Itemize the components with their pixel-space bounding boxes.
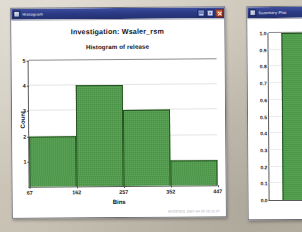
chart-subtitle: Histogram of release xyxy=(14,42,220,52)
summary-plot-frame: 0.0 0.1 0.2 0.3 0.4 0.5 0.6 0.7 0.8 0.9 … xyxy=(267,33,302,201)
y-axis-label: Count xyxy=(20,111,26,128)
sum-ytick-0.6: 0.6 xyxy=(260,97,267,103)
investigation-title: Investigation: Wsaler_rsm xyxy=(14,26,220,37)
window-summary-plot[interactable]: Summary Plot 0.0 0.1 0.2 0.3 0.4 xyxy=(246,6,302,221)
summary-bar-1[interactable] xyxy=(281,32,302,200)
xtick-352: 352 xyxy=(166,189,175,195)
sum-ytick-0.8: 0.8 xyxy=(260,64,267,70)
sum-ytick-0.2: 0.2 xyxy=(260,164,267,170)
sum-ytick-1.0: 1.0 xyxy=(259,30,266,36)
ytick-2: 2 xyxy=(23,133,26,139)
ytick-5: 5 xyxy=(23,58,26,64)
ytick-1: 1 xyxy=(23,159,26,165)
sum-ytick-0.7: 0.7 xyxy=(260,80,267,86)
histogram-plot-frame: 1 1 2 3 4 5 67 162 257 352 447 xyxy=(28,59,218,187)
histogram-bars xyxy=(29,59,218,186)
ytick-4: 4 xyxy=(23,83,26,89)
histogram-chart[interactable]: 1 1 2 3 4 5 67 162 257 352 447 xyxy=(28,59,218,187)
histogram-window-title: Histogram xyxy=(22,10,197,16)
summary-titlebar[interactable]: Summary Plot xyxy=(247,7,302,19)
summary-window-body: 0.0 0.1 0.2 0.3 0.4 0.5 0.6 0.7 0.8 0.9 … xyxy=(247,18,302,219)
sum-ytick-0.5: 0.5 xyxy=(260,114,267,120)
minimize-icon[interactable] xyxy=(197,9,205,17)
maximize-icon[interactable] xyxy=(206,9,214,17)
sum-ytick-0.3: 0.3 xyxy=(260,147,267,153)
xtick-162: 162 xyxy=(72,189,81,195)
sum-ytick-0.9: 0.9 xyxy=(260,47,267,53)
histogram-window-body: Investigation: Wsaler_rsm Histogram of r… xyxy=(11,18,226,218)
close-icon[interactable] xyxy=(215,9,223,17)
sum-ytick-0.4: 0.4 xyxy=(260,130,267,136)
summary-window-title: Summary Plot xyxy=(258,10,302,15)
summary-chart[interactable]: 0.0 0.1 0.2 0.3 0.4 0.5 0.6 0.7 0.8 0.9 … xyxy=(267,33,302,201)
window-histogram[interactable]: Histogram Investigation: Wsaler_rsm Hist… xyxy=(10,6,227,219)
sum-ytick-0.1: 0.1 xyxy=(261,180,268,186)
window-app-icon xyxy=(249,9,256,16)
histogram-bar-2[interactable] xyxy=(76,85,124,186)
xtick-257: 257 xyxy=(119,189,128,195)
histogram-window-controls xyxy=(197,9,223,17)
histogram-bar-3[interactable] xyxy=(123,110,171,186)
chart-timestamp: 04/23/2011 2007-04-23 10:11:07 xyxy=(168,209,220,213)
x-axis-label: Bins xyxy=(13,198,226,206)
sum-ytick-0.0: 0.0 xyxy=(261,197,268,203)
histogram-bar-4[interactable] xyxy=(170,160,217,186)
histogram-bar-1[interactable] xyxy=(29,136,76,187)
xtick-447: 447 xyxy=(213,188,222,194)
xtick-67: 67 xyxy=(27,190,33,196)
window-app-icon xyxy=(13,11,20,18)
